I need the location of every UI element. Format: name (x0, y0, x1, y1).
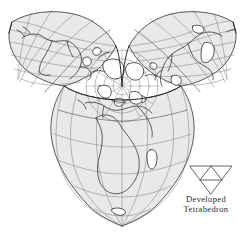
developed-tetrahedron-net-icon (190, 166, 232, 194)
figure-root: Developed Tetrahedron (0, 0, 245, 232)
lobe-upper-left (9, 10, 116, 92)
legend-caption: Developed Tetrahedron (171, 195, 241, 214)
lobe-upper-right (129, 10, 236, 92)
legend-caption-line-2: Tetrahedron (171, 205, 241, 215)
